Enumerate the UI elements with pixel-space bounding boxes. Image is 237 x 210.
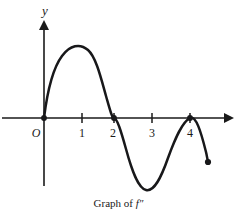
- origin-label: O: [32, 126, 41, 140]
- figure-caption: Graph of f″: [0, 197, 237, 210]
- point-zero-at-2: [111, 115, 117, 121]
- graph-canvas: 1 2 3 4 O y: [0, 0, 237, 210]
- x-tick-label-1: 1: [79, 126, 85, 140]
- point-right-endpoint: [205, 159, 211, 165]
- point-origin: [41, 115, 47, 121]
- x-axis-arrowhead: [224, 113, 234, 123]
- caption-function-name: f″: [136, 197, 144, 209]
- y-axis-arrowhead: [39, 20, 49, 30]
- y-axis-label: y: [40, 3, 48, 18]
- x-tick-label-4: 4: [187, 126, 193, 140]
- point-local-max-at-4: [187, 115, 193, 121]
- graph-figure: 1 2 3 4 O y Graph of f″: [0, 0, 237, 210]
- caption-prefix: Graph of: [94, 197, 136, 209]
- x-tick-label-2: 2: [110, 126, 116, 140]
- x-tick-label-3: 3: [149, 126, 155, 140]
